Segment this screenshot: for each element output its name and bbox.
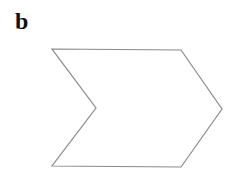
figure-canvas: b xyxy=(0,0,243,186)
chevron-diagram xyxy=(0,0,243,186)
chevron-shape xyxy=(52,49,222,167)
